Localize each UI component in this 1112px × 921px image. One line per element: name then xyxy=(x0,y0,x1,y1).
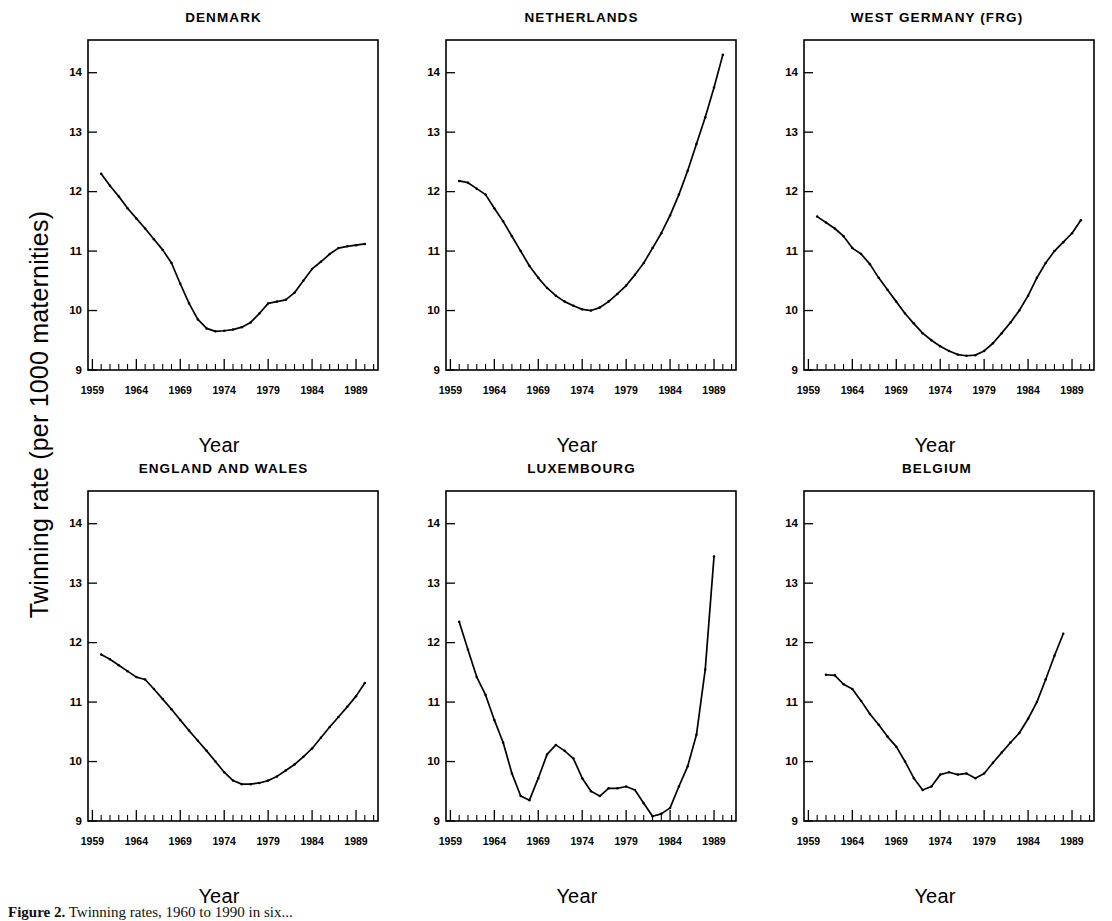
y-tick-label: 12 xyxy=(427,185,440,197)
data-point xyxy=(100,653,103,656)
x-tick-label: 1984 xyxy=(1016,384,1040,396)
data-point xyxy=(722,54,725,57)
y-tick-label: 10 xyxy=(69,304,82,316)
data-series-line xyxy=(459,55,723,311)
x-tick-label: 1959 xyxy=(797,384,821,396)
data-point xyxy=(607,787,610,790)
data-point xyxy=(616,293,619,296)
data-point xyxy=(249,783,252,786)
x-tick-label: 1969 xyxy=(527,835,551,847)
data-point xyxy=(957,773,960,776)
x-tick-label: 1964 xyxy=(483,835,507,847)
data-point xyxy=(1018,732,1021,735)
x-tick-label: 1969 xyxy=(885,835,909,847)
data-series-line xyxy=(459,556,714,816)
panel-title: BELGIUM xyxy=(762,461,1112,476)
x-tick-label: 1979 xyxy=(256,835,280,847)
data-point xyxy=(939,773,942,776)
data-point xyxy=(223,771,226,774)
data-point xyxy=(276,775,279,778)
data-point xyxy=(965,354,968,357)
data-point xyxy=(170,262,173,265)
data-point xyxy=(825,673,828,676)
x-tick-label: 1969 xyxy=(169,835,193,847)
data-point xyxy=(704,668,707,671)
data-point xyxy=(948,771,951,774)
data-point xyxy=(364,682,367,685)
data-point xyxy=(197,318,200,321)
data-point xyxy=(161,249,164,252)
x-axis-label: Year xyxy=(404,885,750,908)
x-axis-label: Year xyxy=(404,434,750,457)
data-point xyxy=(634,274,637,277)
y-tick-label: 9 xyxy=(76,364,82,376)
data-point xyxy=(320,737,323,740)
data-point xyxy=(869,713,872,716)
data-point xyxy=(581,777,584,780)
panel-grid: DENMARK910111213141959196419691974197919… xyxy=(46,0,1112,917)
data-point xyxy=(118,195,121,198)
x-tick-label: 1959 xyxy=(797,835,821,847)
data-point xyxy=(355,695,358,698)
data-point xyxy=(634,789,637,792)
data-point xyxy=(328,253,331,256)
data-point xyxy=(642,262,645,265)
x-tick-label: 1974 xyxy=(571,384,595,396)
x-tick-label: 1984 xyxy=(1016,835,1040,847)
data-point xyxy=(364,243,367,246)
plot-area: 910111213141959196419691974197919841989Y… xyxy=(46,483,392,867)
data-point xyxy=(886,288,889,291)
chart-svg: 910111213141959196419691974197919841989 xyxy=(46,483,392,867)
y-tick-label: 9 xyxy=(792,364,798,376)
x-tick-label: 1969 xyxy=(169,384,193,396)
data-point xyxy=(1053,654,1056,657)
data-point xyxy=(161,698,164,701)
x-tick-label: 1989 xyxy=(702,835,726,847)
y-tick-label: 9 xyxy=(76,815,82,827)
data-point xyxy=(1044,262,1047,265)
y-tick-label: 12 xyxy=(69,185,82,197)
x-tick-label: 1989 xyxy=(702,384,726,396)
data-point xyxy=(546,753,549,756)
data-point xyxy=(293,291,296,294)
plot-area: 910111213141959196419691974197919841989Y… xyxy=(404,483,750,867)
data-point xyxy=(877,723,880,726)
y-tick-label: 13 xyxy=(785,126,798,138)
plot-area: 910111213141959196419691974197919841989Y… xyxy=(46,32,392,416)
y-tick-label: 11 xyxy=(428,245,441,257)
y-tick-label: 9 xyxy=(434,815,440,827)
data-point xyxy=(651,815,654,818)
data-point xyxy=(293,763,296,766)
data-point xyxy=(660,813,663,816)
data-point xyxy=(232,779,235,782)
data-point xyxy=(581,308,584,311)
data-point xyxy=(267,302,270,305)
data-point xyxy=(877,277,880,280)
x-tick-label: 1979 xyxy=(614,384,638,396)
data-point xyxy=(678,193,681,196)
data-point xyxy=(109,184,112,187)
x-tick-label: 1964 xyxy=(125,384,149,396)
data-point xyxy=(1009,741,1012,744)
data-point xyxy=(144,227,147,230)
x-tick-label: 1964 xyxy=(841,835,865,847)
data-point xyxy=(713,555,716,558)
data-point xyxy=(904,760,907,763)
data-point xyxy=(1027,717,1030,720)
data-point xyxy=(1062,241,1065,244)
y-tick-label: 11 xyxy=(70,696,83,708)
y-tick-label: 10 xyxy=(785,755,798,767)
y-tick-label: 13 xyxy=(427,577,440,589)
data-point xyxy=(572,757,575,760)
data-point xyxy=(144,678,147,681)
caption-text: Twinning rates, 1960 to 1990 in six... xyxy=(69,904,293,920)
x-tick-label: 1979 xyxy=(614,835,638,847)
data-point xyxy=(337,716,340,719)
data-point xyxy=(511,235,514,238)
data-point xyxy=(695,734,698,737)
y-tick-label: 12 xyxy=(785,636,798,648)
data-point xyxy=(179,719,182,722)
y-tick-label: 14 xyxy=(785,517,798,529)
data-point xyxy=(948,350,951,353)
